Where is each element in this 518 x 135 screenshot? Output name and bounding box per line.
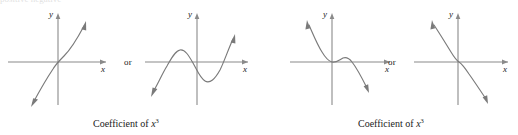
arrow-head-end <box>81 21 86 30</box>
cubic-curve <box>31 21 86 107</box>
cubic-curve <box>151 34 235 97</box>
y-axis-label: y <box>322 9 327 19</box>
y-axis-label: y <box>48 9 53 19</box>
caption-negative-prefix: Coefficient of <box>358 118 416 129</box>
graph-cubic-increasing-svg: x y <box>0 0 122 113</box>
cubic-curve <box>305 20 369 93</box>
y-axis <box>195 13 200 105</box>
arrow-head-start <box>151 88 157 97</box>
x-axis-label: x <box>502 64 507 74</box>
y-axis-label: y <box>187 9 192 19</box>
arrow-head-end <box>231 34 236 44</box>
x-axis-label: x <box>242 64 247 74</box>
caption-negative-exponent: 3 <box>421 117 424 124</box>
cubic-end-behavior-figure: positive negative x y or <box>0 0 518 135</box>
caption-positive-exponent: 3 <box>156 117 159 124</box>
x-axis-label: x <box>100 64 105 74</box>
graph-cubic-decreasing-svg: x y <box>410 0 518 113</box>
y-axis <box>330 13 335 105</box>
y-axis-label: y <box>448 9 453 19</box>
graph-cubic-decreasing: x y <box>410 0 518 113</box>
caption-positive-prefix: Coefficient of <box>93 118 151 129</box>
or-right: or <box>388 57 396 67</box>
arrow-head-start <box>31 98 38 107</box>
graph-cubic-increasing: x y <box>0 0 122 113</box>
or-left: or <box>124 57 132 67</box>
graph-cubic-positive-two-turns-svg: x y <box>140 0 265 113</box>
caption-positive: Coefficient of x3 <box>93 118 159 129</box>
caption-negative: Coefficient of x3 <box>358 118 424 129</box>
graph-cubic-positive-two-turns: x y <box>140 0 265 113</box>
arrow-head-end <box>483 95 488 104</box>
arrow-head-end <box>364 84 369 93</box>
y-axis <box>56 13 61 105</box>
